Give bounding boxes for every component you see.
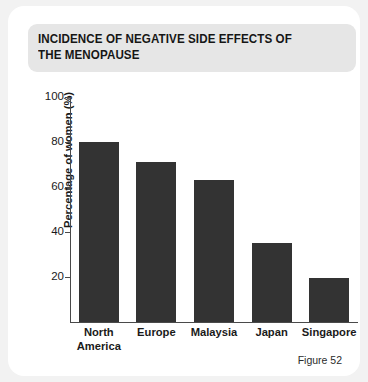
- y-axis-tick: [65, 187, 70, 188]
- y-axis-tick-labels: 10080604020: [30, 97, 64, 322]
- bar: [136, 162, 176, 322]
- figure-page: INCIDENCE OF NEGATIVE SIDE EFFECTS OF TH…: [0, 0, 368, 382]
- y-axis-tick: [65, 232, 70, 233]
- bar: [194, 180, 234, 322]
- y-axis-tick: [65, 97, 70, 98]
- y-axis-tick-label: 80: [30, 135, 64, 147]
- bar: [252, 243, 292, 322]
- x-axis-tick-label: Singapore: [300, 326, 358, 340]
- y-axis-line: [70, 97, 71, 322]
- bar: [309, 278, 349, 322]
- x-axis-line: [70, 322, 358, 323]
- figure-caption: Figure 52: [298, 354, 342, 366]
- y-axis-tick: [65, 277, 70, 278]
- y-axis-tick-label: 40: [30, 225, 64, 237]
- x-axis-tick-label: Europe: [128, 326, 186, 340]
- chart-title: INCIDENCE OF NEGATIVE SIDE EFFECTS OF TH…: [38, 31, 302, 63]
- bar: [79, 142, 119, 322]
- y-axis-tick-label: 100: [30, 90, 64, 102]
- y-axis-tick: [65, 142, 70, 143]
- y-axis-tick-label: 20: [30, 270, 64, 282]
- plot-area: [70, 97, 358, 322]
- x-axis-tick-label: Japan: [243, 326, 301, 340]
- y-axis-tick-label: 60: [30, 180, 64, 192]
- title-band: INCIDENCE OF NEGATIVE SIDE EFFECTS OF TH…: [28, 24, 356, 72]
- x-axis-tick-label: North America: [70, 326, 128, 353]
- x-axis-tick-label: Malaysia: [185, 326, 243, 340]
- figure-card: INCIDENCE OF NEGATIVE SIDE EFFECTS OF TH…: [8, 6, 360, 376]
